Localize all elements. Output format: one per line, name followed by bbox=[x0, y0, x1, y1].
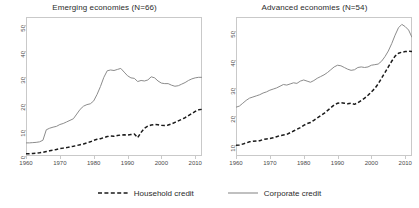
x-tick-label-2000: 2000 bbox=[155, 160, 168, 166]
x-tick-mark-1980 bbox=[304, 156, 305, 159]
y-tick-label-30: 30 bbox=[20, 77, 26, 84]
y-tick-mark-40 bbox=[233, 60, 236, 61]
panel-emerging-economies: Emerging economies (N=66) 01020304050196… bbox=[0, 0, 209, 178]
legend-label-corporate-credit: Corporate credit bbox=[264, 189, 321, 198]
y-tick-mark-20 bbox=[233, 116, 236, 117]
x-tick-label-2010: 2010 bbox=[189, 160, 202, 166]
x-tick-mark-2010 bbox=[195, 156, 196, 159]
legend-swatch-dashed bbox=[98, 190, 128, 196]
y-tick-mark-40 bbox=[23, 51, 26, 52]
legend-swatch-solid bbox=[228, 190, 258, 196]
plot-area-emerging: 01020304050196019701980199020002010 bbox=[26, 17, 202, 156]
figure-legend: Household credit Corporate credit bbox=[0, 182, 419, 204]
y-tick-label-50: 50 bbox=[230, 31, 236, 38]
legend-item-household-credit: Household credit bbox=[98, 189, 194, 198]
legend-label-household-credit: Household credit bbox=[134, 189, 194, 198]
y-tick-label-20: 20 bbox=[230, 116, 236, 123]
x-tick-label-1980: 1980 bbox=[297, 160, 310, 166]
x-tick-mark-2000 bbox=[161, 156, 162, 159]
series-line-corporate-credit bbox=[26, 68, 202, 142]
series-line-corporate-credit bbox=[236, 24, 412, 107]
x-tick-label-2010: 2010 bbox=[399, 160, 412, 166]
y-tick-mark-20 bbox=[23, 104, 26, 105]
series-line-household-credit bbox=[26, 109, 202, 153]
x-tick-label-1960: 1960 bbox=[19, 160, 32, 166]
plot-area-advanced: 1020304050196019701980199020002010 bbox=[236, 17, 412, 156]
x-tick-mark-1990 bbox=[338, 156, 339, 159]
x-tick-mark-1960 bbox=[236, 156, 237, 159]
y-tick-mark-50 bbox=[233, 31, 236, 32]
x-tick-label-1960: 1960 bbox=[229, 160, 242, 166]
x-tick-mark-2010 bbox=[405, 156, 406, 159]
x-tick-label-2000: 2000 bbox=[365, 160, 378, 166]
x-tick-mark-1990 bbox=[128, 156, 129, 159]
y-tick-mark-10 bbox=[233, 145, 236, 146]
y-tick-mark-30 bbox=[233, 88, 236, 89]
x-tick-label-1980: 1980 bbox=[87, 160, 100, 166]
y-tick-mark-50 bbox=[23, 25, 26, 26]
x-tick-label-1970: 1970 bbox=[53, 160, 66, 166]
panel-advanced-economies: Advanced economies (N=54) 10203040501960… bbox=[210, 0, 419, 178]
y-tick-label-20: 20 bbox=[20, 104, 26, 111]
x-tick-mark-1980 bbox=[94, 156, 95, 159]
y-tick-mark-10 bbox=[23, 130, 26, 131]
legend-item-corporate-credit: Corporate credit bbox=[228, 189, 321, 198]
y-tick-label-40: 40 bbox=[20, 51, 26, 58]
plot-lines-advanced bbox=[236, 17, 412, 156]
x-tick-mark-1960 bbox=[26, 156, 27, 159]
x-tick-mark-2000 bbox=[371, 156, 372, 159]
y-tick-label-40: 40 bbox=[230, 60, 236, 67]
credit-to-gdp-figure: Emerging economies (N=66) 01020304050196… bbox=[0, 0, 419, 208]
x-tick-mark-1970 bbox=[270, 156, 271, 159]
y-tick-label-10: 10 bbox=[230, 145, 236, 152]
panel-title-emerging: Emerging economies (N=66) bbox=[0, 3, 209, 12]
x-tick-label-1990: 1990 bbox=[121, 160, 134, 166]
y-tick-label-10: 10 bbox=[20, 130, 26, 137]
panel-title-advanced: Advanced economies (N=54) bbox=[210, 3, 419, 12]
x-tick-label-1990: 1990 bbox=[331, 160, 344, 166]
y-tick-mark-30 bbox=[23, 77, 26, 78]
y-tick-label-30: 30 bbox=[230, 88, 236, 95]
x-tick-mark-1970 bbox=[60, 156, 61, 159]
plot-lines-emerging bbox=[26, 17, 202, 156]
series-line-household-credit bbox=[236, 51, 412, 145]
y-tick-label-50: 50 bbox=[20, 25, 26, 32]
x-tick-label-1970: 1970 bbox=[263, 160, 276, 166]
